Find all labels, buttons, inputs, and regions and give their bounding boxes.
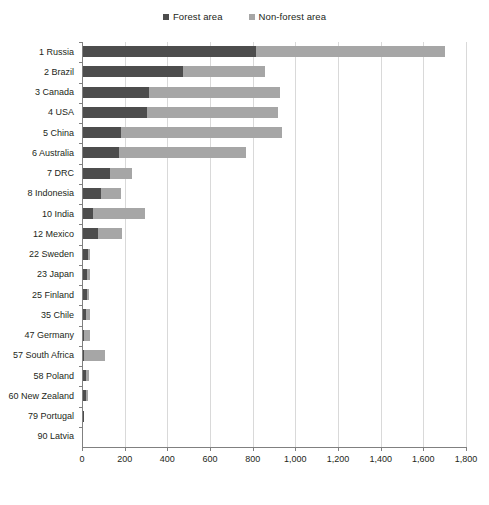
category-label: 23 Japan [0, 265, 78, 285]
bar-row [82, 366, 466, 386]
category-label: 10 India [0, 204, 78, 224]
bar-stack [82, 269, 90, 280]
category-label: 35 Chile [0, 305, 78, 325]
category-label: 3 Canada [0, 83, 78, 103]
bar-stack [82, 309, 90, 320]
category-label: 58 Poland [0, 366, 78, 386]
x-tick-label: 1,800 [455, 454, 478, 464]
bar-row [82, 62, 466, 82]
plot-area [82, 42, 466, 447]
x-tick [295, 447, 296, 451]
bar-row [82, 83, 466, 103]
bar-row [82, 103, 466, 123]
category-label: 5 China [0, 123, 78, 143]
bar-row [82, 265, 466, 285]
bar-segment-non-forest-area [147, 107, 278, 118]
bar-segment-forest-area [82, 168, 110, 179]
category-label: 47 Germany [0, 326, 78, 346]
bar-row [82, 346, 466, 366]
category-label: 79 Portugal [0, 407, 78, 427]
chart-legend: Forest area Non-forest area [0, 12, 489, 22]
bar-row [82, 386, 466, 406]
bar-segment-non-forest-area [87, 289, 89, 300]
bar-stack [82, 188, 121, 199]
x-tick-label: 1,200 [327, 454, 350, 464]
x-tick [210, 447, 211, 451]
bar-stack [82, 350, 105, 361]
bar-segment-non-forest-area [110, 168, 132, 179]
category-axis-labels: 1 Russia2 Brazil3 Canada4 USA5 China6 Au… [0, 42, 78, 447]
bar-segment-forest-area [82, 66, 183, 77]
bar-stack [82, 87, 280, 98]
x-tick-label: 1,000 [284, 454, 307, 464]
bar-segment-forest-area [82, 208, 93, 219]
bar-segment-non-forest-area [98, 228, 122, 239]
legend-item-forest-area: Forest area [163, 12, 223, 22]
x-tick [125, 447, 126, 451]
bar-segment-non-forest-area [121, 127, 282, 138]
x-tick [466, 447, 467, 451]
category-label: 57 South Africa [0, 346, 78, 366]
legend-swatch-forest-area [163, 14, 169, 20]
bar-stack [82, 289, 89, 300]
category-label: 25 Finland [0, 285, 78, 305]
legend-swatch-non-forest-area [249, 14, 255, 20]
bar-row [82, 42, 466, 62]
bar-segment-forest-area [82, 188, 101, 199]
plot-wrapper: 1 Russia2 Brazil3 Canada4 USA5 China6 Au… [0, 36, 489, 456]
bar-segment-non-forest-area [93, 208, 145, 219]
bar-row [82, 285, 466, 305]
bar-segment-non-forest-area [84, 350, 105, 361]
bar-segment-non-forest-area [149, 87, 280, 98]
bar-row [82, 184, 466, 204]
bar-segment-non-forest-area [87, 269, 90, 280]
bar-stack [82, 147, 246, 158]
x-tick [167, 447, 168, 451]
bar-stack [82, 208, 145, 219]
x-tick [253, 447, 254, 451]
bar-stack [82, 46, 445, 57]
x-tick-label: 0 [79, 454, 84, 464]
category-label: 1 Russia [0, 42, 78, 62]
x-tick [423, 447, 424, 451]
y-axis-line [82, 42, 83, 447]
x-tick [381, 447, 382, 451]
bar-row [82, 245, 466, 265]
bar-segment-non-forest-area [86, 390, 87, 401]
x-axis-line [82, 447, 467, 448]
bar-segment-non-forest-area [183, 66, 265, 77]
category-label: 7 DRC [0, 164, 78, 184]
bar-segment-non-forest-area [119, 147, 246, 158]
category-label: 8 Indonesia [0, 184, 78, 204]
bar-segment-forest-area [82, 228, 98, 239]
bar-row [82, 224, 466, 244]
bar-segment-non-forest-area [101, 188, 121, 199]
bar-stack [82, 168, 132, 179]
bar-row [82, 204, 466, 224]
category-label: 22 Sweden [0, 245, 78, 265]
bar-segment-forest-area [82, 127, 121, 138]
bar-segment-forest-area [82, 147, 119, 158]
bar-segment-forest-area [82, 107, 147, 118]
category-label: 2 Brazil [0, 62, 78, 82]
bar-row [82, 427, 466, 447]
bar-segment-non-forest-area [256, 46, 445, 57]
category-label: 6 Australia [0, 143, 78, 163]
bar-row [82, 164, 466, 184]
category-label: 60 New Zealand [0, 386, 78, 406]
bar-stack [82, 127, 282, 138]
bar-stack [82, 249, 90, 260]
x-tick [82, 447, 83, 451]
legend-label-non-forest-area: Non-forest area [259, 12, 327, 22]
bar-stack [82, 228, 122, 239]
x-tick-label: 1,600 [412, 454, 435, 464]
x-tick-label: 1,400 [369, 454, 392, 464]
legend-label-forest-area: Forest area [173, 12, 223, 22]
category-label: 12 Mexico [0, 224, 78, 244]
bar-row [82, 326, 466, 346]
x-tick [338, 447, 339, 451]
bar-segment-non-forest-area [86, 309, 90, 320]
bar-stack [82, 107, 278, 118]
x-tick-label: 800 [245, 454, 260, 464]
bar-row [82, 407, 466, 427]
